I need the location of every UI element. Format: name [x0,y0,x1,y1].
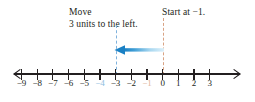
number-line-figure: Move 3 units to the left. Start at −1. [0,0,255,102]
move-arrow-icon [113,43,165,57]
annotation-start-line1: Start at −1. [162,7,205,19]
annotation-start: Start at −1. [162,7,205,19]
annotation-move: Move 3 units to the left. [69,7,138,30]
tick-label-three: 3 [200,78,220,88]
annotation-move-line2: 3 units to the left. [69,19,138,31]
annotation-move-line1: Move [69,7,138,19]
